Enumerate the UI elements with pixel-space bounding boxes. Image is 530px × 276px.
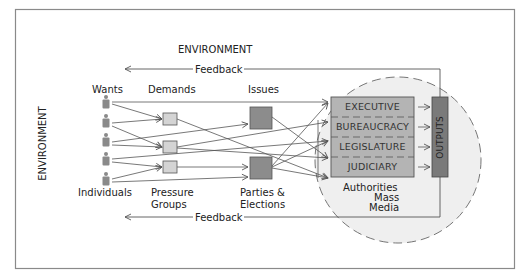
- feedback-bottom-label: Feedback: [195, 212, 243, 223]
- diagram-graphics: [0, 0, 530, 276]
- environment-top-label: ENVIRONMENT: [178, 44, 252, 55]
- issue-box-2: [250, 157, 272, 179]
- environment-left-label: ENVIRONMENT: [37, 104, 48, 184]
- row-judiciary: JUDICIARY: [331, 157, 414, 177]
- row-bureaucracy: BUREAUCRACY: [331, 117, 414, 137]
- authorities-rows: EXECUTIVE BUREAUCRACY LEGISLATURE JUDICI…: [331, 97, 414, 177]
- political-system-diagram: ENVIRONMENT ENVIRONMENT Feedback Feedbac…: [0, 0, 530, 276]
- row-executive: EXECUTIVE: [331, 97, 414, 117]
- demand-box-3: [163, 161, 177, 173]
- parties-label-1: Parties &: [240, 187, 285, 198]
- row-legislature: LEGISLATURE: [331, 137, 414, 157]
- outputs-label: OUTPUTS: [435, 108, 446, 168]
- wants-label: Wants: [92, 84, 123, 95]
- person-icon: [103, 114, 110, 128]
- feedback-top-label: Feedback: [195, 64, 243, 75]
- parties-label-2: Elections: [240, 199, 285, 210]
- pressure-groups-label-1: Pressure: [151, 187, 194, 198]
- mass-media-label-2: Media: [369, 202, 399, 213]
- demands-label: Demands: [148, 84, 196, 95]
- individuals: [103, 95, 110, 186]
- person-icon: [103, 133, 110, 147]
- pressure-groups-label-2: Groups: [151, 199, 187, 210]
- individuals-label: Individuals: [78, 187, 132, 198]
- person-icon: [103, 152, 110, 166]
- issue-box-1: [250, 107, 272, 129]
- demand-box-1: [163, 113, 177, 125]
- person-icon: [103, 95, 110, 109]
- issues-label: Issues: [248, 84, 279, 95]
- person-icon: [103, 172, 110, 186]
- demand-box-2: [163, 141, 177, 153]
- want-arrows: [112, 102, 328, 182]
